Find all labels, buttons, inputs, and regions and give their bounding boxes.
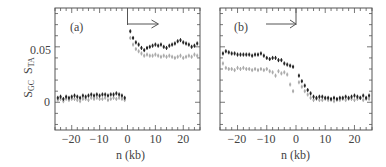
xtick-label: 20: [348, 132, 360, 147]
xtick-label: 10: [149, 132, 161, 147]
panel-a-label: (a): [70, 20, 83, 35]
y-axis-label: SGC STA: [21, 57, 36, 98]
xtick-label: −10: [90, 132, 109, 147]
x-axis-label-b: n (kb): [281, 148, 310, 163]
ytick-label-0: 0: [44, 95, 50, 110]
xtick-label: 0: [293, 132, 299, 147]
xtick-label: −20: [228, 132, 247, 147]
panel-b-label: (b): [234, 20, 248, 35]
xtick-label: −10: [257, 132, 276, 147]
xtick-label: −20: [62, 132, 81, 147]
xtick-label: 10: [319, 132, 331, 147]
ytick-label-005: 0.05: [30, 43, 51, 58]
x-axis-label-a: n (kb): [116, 148, 145, 163]
xtick-label: 20: [177, 132, 189, 147]
xtick-label: 0: [125, 132, 131, 147]
